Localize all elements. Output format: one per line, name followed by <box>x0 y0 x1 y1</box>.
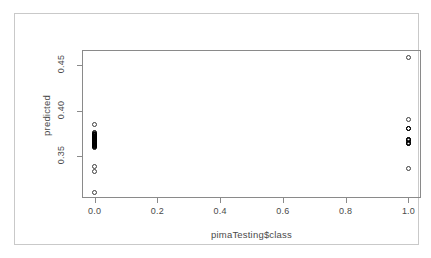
x-axis-tick-label: 0.8 <box>326 206 366 216</box>
y-axis-tick <box>77 65 82 66</box>
x-axis-tick-label: 0.0 <box>75 206 115 216</box>
x-axis-tick-label: 0.6 <box>263 206 303 216</box>
x-axis-tick <box>283 198 284 203</box>
plot-panel-box <box>82 50 421 198</box>
y-axis-tick <box>77 111 82 112</box>
x-axis-tick-label: 0.4 <box>200 206 240 216</box>
scatter-plot-screenshot: 0.350.400.45 0.00.20.40.60.81.0 predicte… <box>0 0 431 258</box>
x-axis-tick <box>220 198 221 203</box>
y-axis-tick-label: 0.45 <box>56 50 66 78</box>
x-axis-tick <box>408 198 409 203</box>
y-axis-tick <box>77 156 82 157</box>
x-axis-tick <box>157 198 158 203</box>
y-axis-tick-label: 0.35 <box>56 141 66 169</box>
y-axis-tick-label: 0.40 <box>56 96 66 124</box>
y-axis-title: predicted <box>41 81 52 151</box>
x-axis-tick <box>95 198 96 203</box>
plot-device-frame: 0.350.400.45 0.00.20.40.60.81.0 predicte… <box>14 13 419 245</box>
x-axis-title: pimaTesting$class <box>82 229 421 240</box>
x-axis-tick-label: 1.0 <box>388 206 428 216</box>
x-axis-tick <box>346 198 347 203</box>
x-axis-tick-label: 0.2 <box>137 206 177 216</box>
